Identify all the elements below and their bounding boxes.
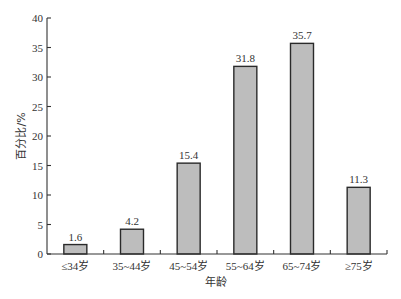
y-tick-label: 20 xyxy=(32,130,44,142)
y-axis-ticks: 0510152025303540 xyxy=(32,12,51,260)
y-tick-label: 25 xyxy=(32,101,44,113)
x-category-label: 35~44岁 xyxy=(113,259,152,272)
bar xyxy=(234,66,257,254)
y-tick-label: 5 xyxy=(38,219,44,231)
bar-value-label: 11.3 xyxy=(349,173,368,185)
y-tick-label: 0 xyxy=(38,248,44,260)
x-category-label: ≤34岁 xyxy=(61,259,89,272)
y-tick-label: 40 xyxy=(32,12,44,24)
bar-value-label: 15.4 xyxy=(179,149,199,161)
bar-value-label: 4.2 xyxy=(125,215,139,227)
x-category-label: 65~74岁 xyxy=(283,259,322,272)
bar-value-label: 1.6 xyxy=(68,231,82,243)
x-axis-title: 年龄 xyxy=(205,275,227,289)
x-category-label: 45~54岁 xyxy=(169,259,208,272)
bar-chart: 0510152025303540 1.64.215.431.835.711.3 … xyxy=(0,0,401,299)
y-tick-label: 15 xyxy=(32,160,44,172)
bar xyxy=(64,245,87,254)
x-axis-ticks: ≤34岁35~44岁45~54岁55~64岁65~74岁≥75岁 xyxy=(61,250,387,272)
bar xyxy=(121,229,144,254)
bar xyxy=(177,163,200,254)
y-tick-label: 30 xyxy=(32,71,44,83)
bar xyxy=(291,43,314,254)
bar xyxy=(347,187,370,254)
y-tick-label: 35 xyxy=(32,42,44,54)
y-axis-title: 百分比/% xyxy=(15,112,28,159)
y-tick-label: 10 xyxy=(32,189,44,201)
x-category-label: ≥75岁 xyxy=(345,259,373,272)
bars: 1.64.215.431.835.711.3 xyxy=(64,29,370,254)
bar-value-label: 31.8 xyxy=(236,52,256,64)
x-category-label: 55~64岁 xyxy=(226,259,265,272)
bar-value-label: 35.7 xyxy=(292,29,312,41)
